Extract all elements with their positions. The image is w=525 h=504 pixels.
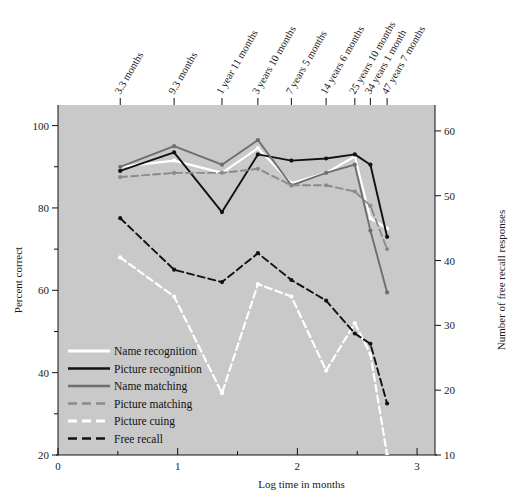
y-axis-left-title: Percent correct: [12, 247, 24, 313]
series-point: [172, 144, 176, 148]
series-point: [289, 294, 293, 298]
x-axis-tick-label: 3: [414, 460, 420, 472]
series-point: [385, 247, 389, 251]
series-point: [324, 299, 328, 303]
y-axis-left-tick-label: 100: [33, 120, 50, 132]
series-point: [353, 321, 357, 325]
y-axis-right-tick-label: 10: [444, 449, 456, 461]
series-point: [256, 146, 260, 150]
series-point: [118, 175, 122, 179]
x-axis-tick-label: 0: [55, 460, 61, 472]
series-point: [368, 163, 372, 167]
line-chart: 3.3 months9.3 months1 year 11 months3 ye…: [0, 0, 525, 504]
series-point: [220, 171, 224, 175]
series-point: [118, 165, 122, 169]
series-point: [324, 156, 328, 160]
svg-text:9.3 months: 9.3 months: [166, 50, 199, 96]
figure-root: 3.3 months9.3 months1 year 11 months3 ye…: [0, 0, 525, 504]
series-point: [172, 294, 176, 298]
series-point: [385, 401, 389, 405]
series-point: [368, 229, 372, 233]
y-axis-right-tick-label: 60: [444, 125, 456, 137]
y-axis-right-tick-label: 40: [444, 255, 456, 267]
series-point: [118, 216, 122, 220]
series-point: [118, 255, 122, 259]
svg-text:Number of free recall response: Number of free recall responses: [495, 210, 507, 351]
y-axis-left-tick-label: 20: [38, 449, 50, 461]
series-point: [256, 251, 260, 255]
series-point: [353, 189, 357, 193]
series-point: [353, 152, 357, 156]
series-point: [289, 159, 293, 163]
series-point: [256, 152, 260, 156]
series-point: [385, 235, 389, 239]
series-point: [368, 216, 372, 220]
y-axis-right-tick-label: 20: [444, 384, 456, 396]
series-point: [256, 167, 260, 171]
y-axis-left-tick-label: 40: [38, 367, 50, 379]
legend-label: Picture cuing: [114, 415, 175, 428]
legend-label: Name matching: [114, 380, 187, 393]
series-point: [368, 352, 372, 356]
series-point: [385, 453, 389, 457]
top-axis-label: 9.3 months: [166, 50, 199, 96]
series-point: [220, 391, 224, 395]
svg-text:3.3 months: 3.3 months: [112, 50, 145, 96]
series-point: [385, 290, 389, 294]
series-point: [172, 171, 176, 175]
y-axis-left-tick-label: 80: [38, 202, 50, 214]
y-axis-right-tick-label: 50: [444, 190, 456, 202]
x-axis-tick-label: 1: [175, 460, 181, 472]
series-point: [289, 183, 293, 187]
series-point: [368, 342, 372, 346]
series-point: [172, 268, 176, 272]
x-axis-tick-label: 2: [295, 460, 301, 472]
series-point: [368, 204, 372, 208]
series-point: [324, 183, 328, 187]
series-point: [353, 163, 357, 167]
series-point: [220, 210, 224, 214]
series-point: [324, 369, 328, 373]
legend-label: Picture matching: [114, 398, 192, 411]
y-axis-right-tick-label: 30: [444, 319, 456, 331]
series-point: [172, 159, 176, 163]
series-point: [324, 171, 328, 175]
y-axis-right-title: Number of free recall responses: [495, 210, 507, 351]
series-point: [220, 163, 224, 167]
series-point: [118, 169, 122, 173]
series-point: [220, 280, 224, 284]
x-axis-title: Log time in months: [258, 478, 344, 490]
series-point: [289, 278, 293, 282]
series-point: [256, 138, 260, 142]
series-point: [172, 150, 176, 154]
series-point: [256, 282, 260, 286]
legend-label: Free recall: [114, 433, 163, 445]
legend-label: Picture recognition: [114, 363, 202, 376]
legend-label: Name recognition: [114, 345, 197, 358]
y-axis-left-tick-label: 60: [38, 284, 50, 296]
svg-text:Percent correct: Percent correct: [12, 247, 24, 313]
top-axis-label: 3.3 months: [112, 50, 145, 96]
series-point: [353, 331, 357, 335]
